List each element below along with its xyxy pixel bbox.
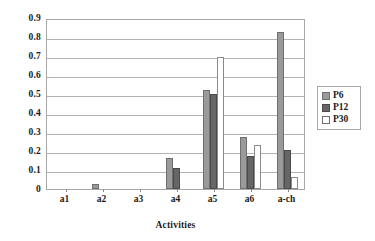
legend-label: P30 — [333, 115, 348, 125]
legend-label: P6 — [333, 91, 344, 101]
legend-label: P12 — [333, 103, 348, 113]
y-axis-tick-label: 0.3 — [8, 128, 41, 138]
bar-group — [129, 20, 150, 189]
bar-group — [166, 20, 187, 189]
legend-item-P30: P30 — [322, 114, 357, 126]
bar-a4-P6 — [166, 158, 173, 189]
x-axis-tick-mark — [251, 189, 252, 192]
bar-a6-P12 — [247, 156, 254, 189]
legend-swatch-icon — [322, 104, 330, 112]
x-axis-tick-mark — [214, 189, 215, 192]
x-axis-tick-label: a-ch — [268, 195, 305, 205]
x-axis-tick-label: a1 — [46, 195, 83, 205]
x-axis-tick-mark — [288, 189, 289, 192]
bar-a-ch-P6 — [277, 32, 284, 189]
y-axis-tick-label: 0.2 — [8, 147, 41, 157]
legend-item-P6: P6 — [322, 90, 357, 102]
x-axis-tick-mark — [140, 189, 141, 192]
x-axis-tick-labels: a1a2a3a4a5a6a-ch — [46, 195, 305, 209]
plot-area — [46, 19, 305, 190]
x-axis-tick-label: a4 — [157, 195, 194, 205]
bar-group — [92, 20, 113, 189]
legend-item-P12: P12 — [322, 102, 357, 114]
bar-a5-P6 — [203, 90, 210, 189]
x-axis-tick-mark — [103, 189, 104, 192]
x-axis-tick-label: a5 — [194, 195, 231, 205]
bar-a6-P30 — [254, 145, 261, 189]
bar-group — [277, 20, 298, 189]
bar-a5-P30 — [217, 57, 224, 189]
bar-a6-P6 — [240, 137, 247, 189]
x-axis-tick-label: a3 — [120, 195, 157, 205]
y-axis-tick-label: 0.6 — [8, 71, 41, 81]
bar-group — [203, 20, 224, 189]
legend-swatch-icon — [322, 92, 330, 100]
y-axis-tick-label: 0.8 — [8, 33, 41, 43]
chart-legend: P6P12P30 — [317, 86, 361, 130]
y-axis-tick-label: 0.1 — [8, 166, 41, 176]
bar-chart: 0.90.80.70.60.50.40.30.20.10 a1a2a3a4a5a… — [0, 0, 375, 241]
y-axis-tick-labels: 0.90.80.70.60.50.40.30.20.10 — [8, 19, 41, 190]
bar-group — [240, 20, 261, 189]
bar-a5-P12 — [210, 94, 217, 189]
x-axis-tick-label: a6 — [231, 195, 268, 205]
y-axis-tick-label: 0.9 — [8, 14, 41, 24]
bar-a2-P6 — [92, 184, 99, 189]
bar-a-ch-P30 — [291, 177, 298, 189]
bar-a-ch-P12 — [284, 150, 291, 189]
x-axis-tick-label: a2 — [83, 195, 120, 205]
bar-a4-P12 — [173, 168, 180, 189]
bar-group — [55, 20, 76, 189]
y-axis-tick-label: 0.7 — [8, 52, 41, 62]
x-axis-tick-mark — [66, 189, 67, 192]
x-axis-title: Activities — [46, 220, 305, 230]
y-axis-tick-label: 0 — [8, 185, 41, 195]
x-axis-tick-mark — [177, 189, 178, 192]
y-axis-tick-label: 0.4 — [8, 109, 41, 119]
y-axis-tick-label: 0.5 — [8, 90, 41, 100]
legend-swatch-icon — [322, 116, 330, 124]
